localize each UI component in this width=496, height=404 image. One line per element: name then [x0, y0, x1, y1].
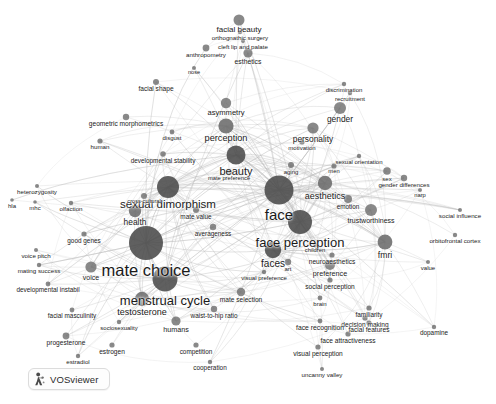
network-node[interactable]: [243, 48, 252, 57]
network-edge: [112, 299, 142, 345]
network-node[interactable]: [299, 139, 304, 144]
network-edge: [330, 262, 428, 280]
network-node[interactable]: [262, 270, 266, 274]
network-edge: [315, 245, 369, 323]
network-edge: [236, 84, 344, 155]
network-node[interactable]: [109, 342, 114, 347]
network-node[interactable]: [129, 205, 141, 217]
network-node[interactable]: [208, 360, 212, 364]
network-node[interactable]: [97, 138, 102, 143]
network-node[interactable]: [320, 367, 324, 371]
network-node[interactable]: [383, 167, 391, 175]
network-edge: [385, 242, 434, 327]
network-node[interactable]: [401, 175, 407, 181]
network-node[interactable]: [226, 169, 232, 175]
network-node[interactable]: [318, 296, 323, 301]
network-node[interactable]: [193, 207, 199, 213]
network-node[interactable]: [192, 66, 196, 70]
network-node[interactable]: [288, 162, 294, 168]
network-node[interactable]: [285, 259, 291, 265]
network-edge: [369, 242, 385, 323]
network-node[interactable]: [234, 15, 245, 26]
network-node[interactable]: [81, 231, 86, 236]
network-node[interactable]: [366, 320, 371, 325]
network-node[interactable]: [288, 210, 312, 234]
network-edge: [66, 336, 210, 362]
network-edge: [37, 117, 126, 186]
network-edge: [142, 299, 320, 322]
network-node[interactable]: [160, 151, 166, 157]
network-node[interactable]: [33, 200, 37, 204]
vosviewer-map-canvas[interactable]: facial beautyorthognathic surgerycleft l…: [0, 0, 496, 404]
network-node[interactable]: [318, 319, 323, 324]
network-node[interactable]: [453, 233, 457, 237]
network-node[interactable]: [10, 198, 14, 202]
network-node[interactable]: [129, 226, 163, 260]
network-edge: [248, 53, 334, 166]
network-edge: [365, 210, 376, 318]
network-node[interactable]: [69, 201, 73, 205]
network-node[interactable]: [170, 130, 175, 135]
network-node[interactable]: [238, 30, 242, 34]
network-node[interactable]: [237, 288, 245, 296]
network-node[interactable]: [171, 316, 180, 325]
network-node[interactable]: [85, 261, 96, 272]
network-node[interactable]: [70, 308, 75, 313]
network-node[interactable]: [345, 331, 350, 336]
network-node[interactable]: [329, 252, 334, 257]
network-node[interactable]: [348, 91, 352, 95]
network-node[interactable]: [141, 193, 147, 199]
network-node[interactable]: [318, 176, 332, 190]
network-node[interactable]: [331, 163, 336, 168]
network-node[interactable]: [365, 204, 377, 216]
network-node[interactable]: [313, 243, 318, 248]
network-node[interactable]: [193, 342, 198, 347]
network-node[interactable]: [123, 114, 129, 120]
network-node[interactable]: [218, 118, 233, 133]
network-node[interactable]: [344, 195, 352, 203]
network-node[interactable]: [325, 260, 335, 270]
network-edge: [156, 78, 350, 93]
network-node[interactable]: [418, 188, 422, 192]
network-graph-svg: [0, 0, 496, 404]
vosviewer-logo-badge[interactable]: VOSviewer: [28, 368, 110, 390]
network-edge: [168, 126, 226, 187]
network-node[interactable]: [426, 260, 430, 264]
network-node[interactable]: [357, 154, 361, 158]
network-node[interactable]: [265, 242, 281, 258]
network-node[interactable]: [265, 176, 294, 205]
network-node[interactable]: [227, 146, 246, 165]
network-node[interactable]: [458, 208, 462, 212]
network-node[interactable]: [307, 122, 318, 133]
network-edge: [348, 327, 434, 334]
network-node[interactable]: [432, 325, 436, 329]
network-node[interactable]: [203, 45, 210, 52]
network-node[interactable]: [157, 176, 179, 198]
network-node[interactable]: [37, 263, 41, 267]
network-node[interactable]: [76, 354, 80, 358]
network-node[interactable]: [221, 98, 231, 108]
node-group: [10, 15, 462, 372]
network-node[interactable]: [334, 102, 346, 114]
network-node[interactable]: [241, 39, 245, 43]
network-node[interactable]: [117, 320, 121, 324]
network-node[interactable]: [327, 277, 332, 282]
vosviewer-logo-label: VOSviewer: [50, 374, 98, 385]
network-node[interactable]: [362, 315, 367, 320]
network-node[interactable]: [366, 305, 371, 310]
network-node[interactable]: [342, 82, 346, 86]
network-node[interactable]: [210, 224, 216, 230]
network-node[interactable]: [34, 248, 38, 252]
network-edge: [226, 106, 340, 126]
network-node[interactable]: [153, 267, 178, 292]
network-edge: [420, 190, 437, 327]
network-node[interactable]: [46, 282, 51, 287]
network-node[interactable]: [153, 79, 159, 85]
network-node[interactable]: [315, 344, 320, 349]
network-node[interactable]: [211, 306, 217, 312]
network-edge: [78, 322, 119, 356]
network-node[interactable]: [135, 292, 149, 306]
network-node[interactable]: [63, 333, 70, 340]
network-node[interactable]: [378, 235, 393, 250]
network-node[interactable]: [35, 184, 39, 188]
